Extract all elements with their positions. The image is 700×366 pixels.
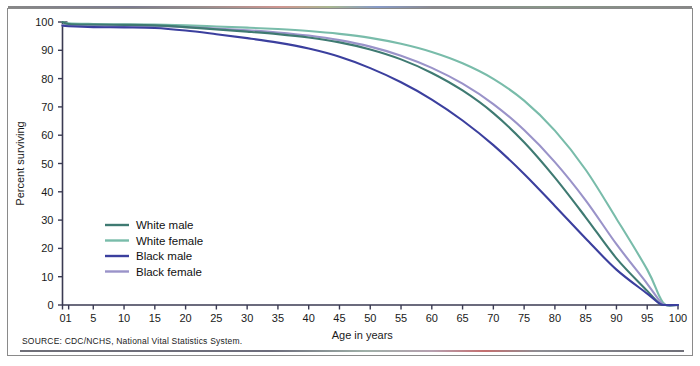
x-axis-tick-label: 100 — [669, 312, 687, 324]
x-axis-tick-label: 60 — [426, 312, 438, 324]
y-axis-tick-label: 50 — [41, 158, 53, 170]
chart-plot-area: 0151015202530354045505560657075808590951… — [0, 0, 700, 366]
series-line — [63, 26, 679, 305]
legend-label: Black male — [136, 250, 192, 262]
axis-titles-group: Age in yearsPercent surviving — [14, 121, 393, 341]
x-axis-tick-label: 95 — [641, 312, 653, 324]
x-axis-tick-label: 40 — [303, 312, 315, 324]
x-axis-tick-label: 65 — [456, 312, 468, 324]
y-axis-tick-label: 40 — [41, 186, 53, 198]
series-line — [63, 22, 679, 305]
x-axis-tick-label: 45 — [333, 312, 345, 324]
y-axis-tick-label: 80 — [41, 73, 53, 85]
chart-legend: White maleWhite femaleBlack maleBlack fe… — [105, 219, 203, 278]
x-axis-tick-label: 1 — [66, 312, 72, 324]
y-axis-title: Percent surviving — [14, 121, 26, 205]
y-axis-tick-label: 0 — [47, 299, 53, 311]
legend-label: White male — [136, 219, 194, 231]
y-axis-tick-label: 70 — [41, 101, 53, 113]
y-axis-tick-label: 90 — [41, 44, 53, 56]
x-axis-tick-label: 75 — [518, 312, 530, 324]
x-axis-tick-label: 70 — [487, 312, 499, 324]
curves-group — [63, 22, 679, 306]
y-axis-tick-label: 100 — [35, 16, 53, 28]
survival-curve-figure: 0151015202530354045505560657075808590951… — [0, 0, 700, 366]
x-axis-tick-label: 10 — [118, 312, 130, 324]
x-axis-tick-label: 30 — [241, 312, 253, 324]
legend-label: Black female — [136, 266, 202, 278]
y-axis-tick-label: 20 — [41, 242, 53, 254]
series-line — [63, 22, 679, 306]
x-axis-tick-label: 15 — [149, 312, 161, 324]
x-axis-tick-label: 5 — [90, 312, 96, 324]
x-axis-tick-label: 20 — [179, 312, 191, 324]
y-axis-tick-label: 10 — [41, 271, 53, 283]
x-axis-title: Age in years — [332, 329, 394, 341]
y-axis-tick-label: 30 — [41, 214, 53, 226]
x-axis-tick-label: 55 — [395, 312, 407, 324]
y-axis-tick-label: 60 — [41, 129, 53, 141]
x-axis-tick-label: 50 — [364, 312, 376, 324]
x-axis-tick-label: 85 — [580, 312, 592, 324]
source-note: SOURCE: CDC/NCHS, National Vital Statist… — [22, 336, 242, 346]
axes-group: 0151015202530354045505560657075808590951… — [35, 16, 687, 324]
legend-label: White female — [136, 235, 203, 247]
x-axis-tick-label: 25 — [210, 312, 222, 324]
x-axis-tick-label: 80 — [549, 312, 561, 324]
x-axis-tick-label: 35 — [272, 312, 284, 324]
x-axis-tick-label: 90 — [610, 312, 622, 324]
